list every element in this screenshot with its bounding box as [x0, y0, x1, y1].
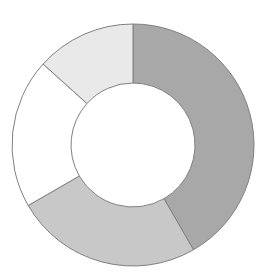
donut-chart	[0, 0, 266, 279]
donut-slices-group	[12, 24, 254, 266]
donut-chart-container	[0, 0, 266, 279]
